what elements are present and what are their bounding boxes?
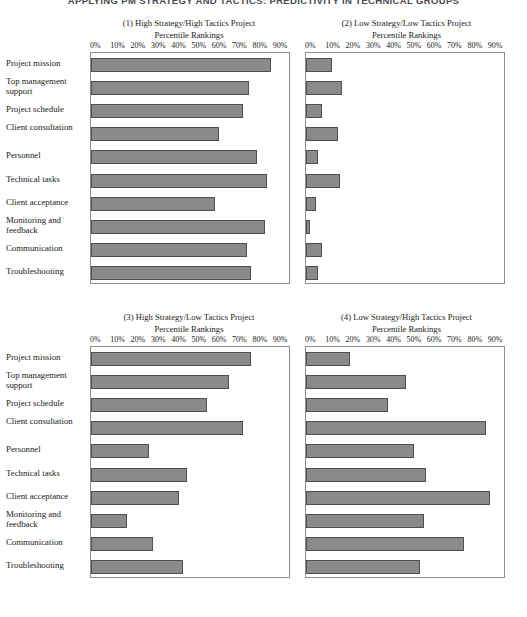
- bar: [91, 150, 257, 164]
- bar: [91, 81, 249, 95]
- tick-label: 10%: [110, 335, 130, 346]
- chart-4-title: (4) Low Strategy/High Tactics Project: [300, 312, 527, 323]
- bar: [306, 243, 322, 257]
- category-label: Client consultation: [6, 122, 85, 132]
- bar: [306, 352, 350, 366]
- chart-3-tick-labels: 0% 10% 20% 30% 40% 50% 60% 70% 80% 90%: [90, 335, 295, 346]
- chart-1-tick-labels: 0% 10% 20% 30% 40% 50% 60% 70% 80% 90%: [90, 41, 295, 52]
- tick-label: 60%: [427, 335, 447, 346]
- tick-label: 70%: [447, 335, 467, 346]
- category-label: Communication: [6, 243, 85, 253]
- bar: [306, 421, 486, 435]
- tick-label: 0%: [305, 335, 325, 346]
- bar: [306, 375, 406, 389]
- bar: [91, 468, 187, 482]
- chart-2-subtitle: Percentile Rankings: [300, 29, 527, 41]
- tick-label: 30%: [151, 335, 171, 346]
- tick-label: 40%: [171, 41, 191, 52]
- tick-label: 60%: [212, 335, 232, 346]
- category-label: Technical tasks: [6, 468, 85, 478]
- category-label: Project mission: [6, 58, 85, 68]
- chart-4-tick-labels: 0% 10% 20% 30% 40% 50% 60% 70% 80% 90%: [305, 335, 510, 346]
- bar: [306, 514, 424, 528]
- tick-label: 20%: [131, 41, 151, 52]
- chart-3-title: (3) High Strategy/Low Tactics Project: [0, 312, 300, 323]
- tick-label: 80%: [252, 335, 272, 346]
- tick-label: 30%: [151, 41, 171, 52]
- tick-label: 70%: [232, 41, 252, 52]
- chart-panel-3: (3) High Strategy/Low Tactics Project Pe…: [0, 312, 300, 578]
- bar: [306, 398, 388, 412]
- tick-label: 50%: [406, 41, 426, 52]
- category-label: Personnel: [6, 444, 85, 454]
- category-label: Client consultation: [6, 416, 85, 426]
- tick-label: 40%: [171, 335, 191, 346]
- bar: [306, 81, 342, 95]
- bar: [306, 104, 322, 118]
- category-label: Communication: [6, 537, 85, 547]
- tick-label: 50%: [191, 335, 211, 346]
- tick-label: 80%: [252, 41, 272, 52]
- bar: [306, 150, 318, 164]
- tick-label: 60%: [427, 41, 447, 52]
- category-label: Personnel: [6, 150, 85, 160]
- category-label: Project schedule: [6, 398, 85, 408]
- category-label: Top management support: [6, 76, 85, 97]
- tick-label: 90%: [273, 335, 293, 346]
- category-label: Top management support: [6, 370, 85, 391]
- bar: [91, 398, 207, 412]
- tick-label: 50%: [406, 335, 426, 346]
- bar: [306, 174, 340, 188]
- bar: [91, 352, 251, 366]
- tick-label: 10%: [110, 41, 130, 52]
- tick-label: 80%: [467, 41, 487, 52]
- bar: [306, 127, 338, 141]
- tick-label: 40%: [386, 41, 406, 52]
- chart-1-axis: 0% 10% 20% 30% 40% 50% 60% 70% 80% 90%: [0, 41, 300, 52]
- chart-3-axis: 0% 10% 20% 30% 40% 50% 60% 70% 80% 90%: [0, 335, 300, 346]
- tick-label: 70%: [447, 41, 467, 52]
- tick-label: 90%: [273, 41, 293, 52]
- bar: [91, 537, 153, 551]
- bar: [91, 444, 149, 458]
- bar: [91, 491, 179, 505]
- tick-label: 20%: [346, 335, 366, 346]
- bar: [91, 127, 219, 141]
- chart-4-plot-area: [305, 346, 505, 578]
- tick-label: 20%: [346, 41, 366, 52]
- chart-4-plotwrap: [300, 346, 527, 578]
- chart-3-plot-area: [90, 346, 290, 578]
- chart-2-plot-area: [305, 52, 505, 284]
- category-label: Monitoring and feedback: [6, 215, 85, 236]
- chart-4-axis: 0% 10% 20% 30% 40% 50% 60% 70% 80% 90%: [300, 335, 527, 346]
- chart-panel-1: (1) High Strategy/High Tactics Project P…: [0, 18, 300, 284]
- bar: [91, 560, 183, 574]
- tick-label: 60%: [212, 41, 232, 52]
- chart-3-category-labels: Project missionTop management supportPro…: [0, 346, 90, 578]
- bar: [91, 220, 265, 234]
- chart-2-plotwrap: [300, 52, 527, 284]
- bar: [91, 421, 243, 435]
- bar: [91, 514, 127, 528]
- category-label: Troubleshooting: [6, 266, 85, 276]
- chart-1-subtitle: Percentile Rankings: [0, 29, 300, 41]
- figure-row-top: (1) High Strategy/High Tactics Project P…: [0, 18, 527, 284]
- tick-label: 40%: [386, 335, 406, 346]
- tick-label: 30%: [366, 41, 386, 52]
- bar: [91, 266, 251, 280]
- chart-1-plot-area: [90, 52, 290, 284]
- tick-label: 10%: [325, 41, 345, 52]
- chart-4-subtitle: Percentile Rankings: [300, 323, 527, 335]
- chart-1-plotwrap: Project missionTop management supportPro…: [0, 52, 300, 284]
- bar: [306, 468, 426, 482]
- category-label: Project mission: [6, 352, 85, 362]
- chart-1-category-labels: Project missionTop management supportPro…: [0, 52, 90, 284]
- bar: [306, 197, 316, 211]
- bar: [91, 197, 215, 211]
- tick-label: 80%: [467, 335, 487, 346]
- bar: [91, 174, 267, 188]
- tick-label: 10%: [325, 335, 345, 346]
- tick-label: 70%: [232, 335, 252, 346]
- running-head: APPLYING PM STRATEGY AND TACTICS: PREDIC…: [0, 0, 527, 5]
- bar: [306, 491, 490, 505]
